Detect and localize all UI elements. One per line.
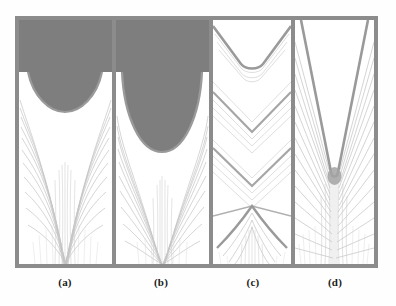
keyhole-root-d xyxy=(328,167,342,185)
panel-a-graphic xyxy=(19,20,112,264)
panel-a xyxy=(19,20,112,264)
caption-panel-d: (d) xyxy=(315,276,355,288)
montage-frame xyxy=(15,16,378,268)
panel-d xyxy=(295,20,374,264)
figure-micrograph-montage: (a) (b) (c) (d) xyxy=(0,0,396,306)
panel-c xyxy=(213,20,291,264)
caption-panel-c: (c) xyxy=(233,276,273,288)
panel-b-graphic xyxy=(116,20,209,264)
caption-panel-b: (b) xyxy=(141,276,181,288)
panel-b xyxy=(116,20,209,264)
panel-d-graphic xyxy=(295,20,374,264)
caption-panel-a: (a) xyxy=(45,276,85,288)
panel-c-graphic xyxy=(213,20,291,264)
